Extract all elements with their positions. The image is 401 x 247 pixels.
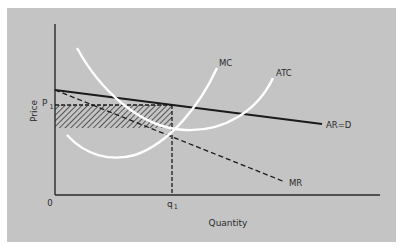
y-axis-label: Price bbox=[29, 100, 39, 122]
q1-label: q1 bbox=[167, 199, 178, 211]
mc-label: MC bbox=[219, 58, 232, 68]
p1-label: P1 bbox=[42, 98, 54, 111]
atc-label: ATC bbox=[276, 68, 292, 78]
ar-demand-label: AR=D bbox=[326, 120, 352, 130]
origin-label: 0 bbox=[47, 198, 52, 208]
profit-hatched-area bbox=[55, 105, 172, 128]
x-axis-label: Quantity bbox=[209, 218, 249, 228]
chart-canvas: Price Quantity 0 P1 q1 MC ATC AR=D MR bbox=[0, 0, 401, 247]
mr-label: MR bbox=[289, 178, 302, 188]
